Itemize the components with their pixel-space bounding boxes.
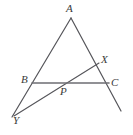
- point-label-b: B: [21, 74, 28, 85]
- point-label-y: Y: [13, 115, 19, 126]
- point-label-a: A: [66, 3, 73, 14]
- point-label-x: X: [101, 54, 108, 65]
- point-label-c: C: [111, 77, 118, 88]
- point-label-p: P: [60, 86, 67, 97]
- line-y-through-p-to-x: [14, 63, 99, 116]
- line-a-to-y: [12, 18, 71, 117]
- geometry-figure: ABCXPY: [0, 0, 133, 135]
- geometry-canvas: [0, 0, 133, 135]
